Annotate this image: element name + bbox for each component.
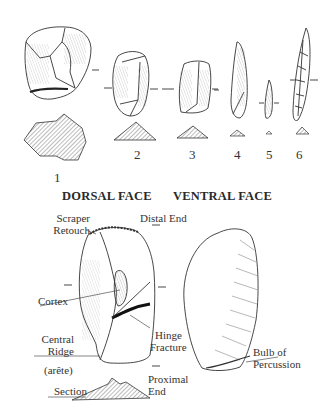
artifact-1-core [25,27,99,99]
label-ridge: Ridge [20,345,74,358]
label-percussion: Percussion [253,358,301,371]
artifact-4-section [230,130,245,136]
artifact-label-4: 4 [234,147,241,163]
label-section: Section [54,385,87,398]
artifact-3 [162,61,218,113]
artifact-6 [290,28,318,121]
label-cortex: Cortex [38,295,68,308]
artifact-2 [104,52,158,117]
artifact-5 [259,80,279,118]
heading-ventral-face: VENTRAL FACE [173,189,272,204]
artifact-label-5: 5 [266,147,273,163]
artifact-1-section [24,114,86,160]
label-distal-end: Distal End [140,212,187,225]
artifact-label-2: 2 [134,147,141,163]
artifact-2-section [114,122,156,140]
artifact-label-1: 1 [54,170,61,186]
artifact-label-3: 3 [189,147,196,163]
label-arete: (arête) [44,364,73,377]
artifact-label-6: 6 [296,147,303,163]
artifact-5-section [266,131,272,134]
artifact-6-section [296,127,309,134]
label-end: End [148,385,166,398]
heading-dorsal-face: DORSAL FACE [62,189,152,204]
label-retouch: Retouch [40,224,90,237]
artifact-3-section [177,126,208,138]
label-fracture: Fracture [150,341,187,354]
ventral-face-flake [184,229,258,371]
artifact-4 [214,42,247,118]
